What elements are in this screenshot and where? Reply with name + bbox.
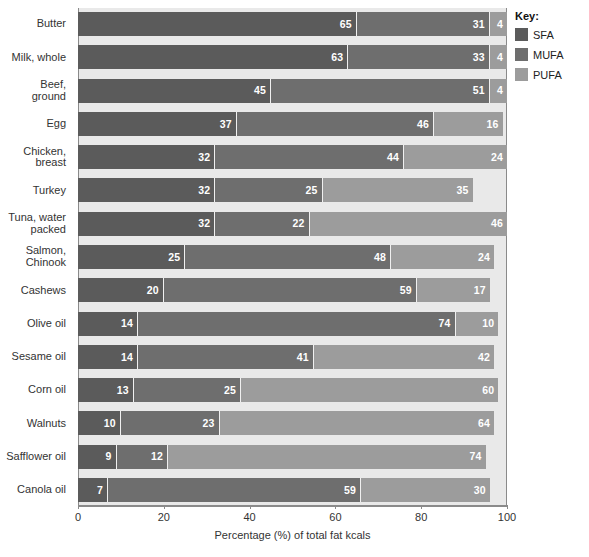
bar-segment-sfa: 32 <box>78 178 215 202</box>
bar-value-label: 30 <box>474 485 490 496</box>
bar-segment-pufa: 4 <box>490 45 507 69</box>
legend-item-sfa[interactable]: SFA <box>515 28 585 41</box>
bar-value-label: 46 <box>417 119 433 130</box>
bar-value-label: 13 <box>117 385 133 396</box>
bar-segment-pufa: 35 <box>323 178 473 202</box>
bar-segment-pufa: 46 <box>310 212 507 236</box>
bar-value-label: 9 <box>106 451 116 462</box>
bar-value-label: 10 <box>104 418 120 429</box>
category-label: Salmon, Chinook <box>0 245 72 269</box>
bar-value-label: 22 <box>293 218 309 229</box>
category-label: Egg <box>0 112 72 136</box>
bar-value-label: 24 <box>491 152 507 163</box>
bar-value-label: 64 <box>478 418 494 429</box>
bar-segment-sfa: 14 <box>78 312 138 336</box>
bar-value-label: 14 <box>121 318 137 329</box>
bar-row: 374616 <box>78 112 507 136</box>
bar-value-label: 23 <box>202 418 218 429</box>
bar-segment-mufa: 12 <box>117 445 168 469</box>
category-label: Milk, whole <box>0 45 72 69</box>
bar-segment-sfa: 7 <box>78 478 108 502</box>
bar-value-label: 7 <box>97 485 107 496</box>
bar-value-label: 48 <box>374 252 390 263</box>
bar-value-label: 25 <box>305 185 321 196</box>
x-tick-label: 40 <box>243 505 255 523</box>
bar-segment-sfa: 10 <box>78 411 121 435</box>
category-label: Sesame oil <box>0 345 72 369</box>
bar-segment-mufa: 22 <box>215 212 309 236</box>
bar-segment-pufa: 10 <box>456 312 499 336</box>
bar-segment-pufa: 60 <box>241 378 498 402</box>
bar-segment-sfa: 25 <box>78 245 185 269</box>
bar-value-label: 35 <box>457 185 473 196</box>
bar-value-label: 24 <box>478 252 494 263</box>
bar-segment-mufa: 25 <box>134 378 241 402</box>
legend-label: SFA <box>533 29 554 41</box>
bar-value-label: 14 <box>121 352 137 363</box>
category-label: Beef, ground <box>0 79 72 103</box>
legend: Key: SFAMUFAPUFA <box>515 10 585 88</box>
category-label: Tuna, water packed <box>0 212 72 236</box>
legend-title: Key: <box>515 10 585 22</box>
bar-value-label: 45 <box>254 85 270 96</box>
x-tick-label: 60 <box>329 505 341 523</box>
bar-value-label: 41 <box>297 352 313 363</box>
stacked-bar-chart: ButterMilk, wholeBeef, groundEggChicken,… <box>0 0 589 557</box>
x-tick-label: 0 <box>75 505 81 523</box>
bar-segment-pufa: 42 <box>314 345 494 369</box>
bar-row: 65314 <box>78 12 507 36</box>
category-label: Corn oil <box>0 378 72 402</box>
category-label: Canola oil <box>0 478 72 502</box>
bar-segment-mufa: 25 <box>215 178 322 202</box>
bar-segment-sfa: 63 <box>78 45 348 69</box>
bar-segment-sfa: 14 <box>78 345 138 369</box>
bar-segment-sfa: 37 <box>78 112 237 136</box>
bar-value-label: 4 <box>497 52 507 63</box>
bar-segment-mufa: 51 <box>271 79 490 103</box>
bar-value-label: 65 <box>340 19 356 30</box>
legend-swatch-icon <box>515 68 528 81</box>
x-axis-line <box>78 505 507 507</box>
bar-value-label: 37 <box>220 119 236 130</box>
bar-row: 322246 <box>78 212 507 236</box>
bar-value-label: 32 <box>198 152 214 163</box>
category-label: Butter <box>0 12 72 36</box>
bar-value-label: 20 <box>147 285 163 296</box>
bar-segment-sfa: 13 <box>78 378 134 402</box>
bar-segment-sfa: 32 <box>78 145 215 169</box>
bar-row: 91274 <box>78 445 507 469</box>
bar-segment-mufa: 41 <box>138 345 314 369</box>
bar-value-label: 74 <box>469 451 485 462</box>
bar-segment-mufa: 46 <box>237 112 434 136</box>
bar-segment-sfa: 45 <box>78 79 271 103</box>
category-axis-labels: ButterMilk, wholeBeef, groundEggChicken,… <box>0 8 72 505</box>
bar-row: 102364 <box>78 411 507 435</box>
bar-row: 132560 <box>78 378 507 402</box>
bar-value-label: 63 <box>331 52 347 63</box>
bar-value-label: 59 <box>344 485 360 496</box>
bar-value-label: 46 <box>491 218 507 229</box>
legend-item-mufa[interactable]: MUFA <box>515 48 585 61</box>
bar-value-label: 44 <box>387 152 403 163</box>
bar-segment-pufa: 24 <box>404 145 507 169</box>
bar-segment-sfa: 20 <box>78 278 164 302</box>
bar-segment-pufa: 4 <box>490 12 507 36</box>
bar-row: 322535 <box>78 178 507 202</box>
bar-value-label: 74 <box>438 318 454 329</box>
category-label: Cashews <box>0 278 72 302</box>
category-label: Chicken, breast <box>0 145 72 169</box>
bar-segment-pufa: 17 <box>417 278 490 302</box>
category-label: Olive oil <box>0 312 72 336</box>
bar-segment-mufa: 31 <box>357 12 490 36</box>
bar-row: 45514 <box>78 79 507 103</box>
category-label: Safflower oil <box>0 445 72 469</box>
legend-item-pufa[interactable]: PUFA <box>515 68 585 81</box>
bar-value-label: 42 <box>478 352 494 363</box>
bar-rows: 6531463334455143746163244243225353222462… <box>78 8 507 505</box>
bar-segment-mufa: 59 <box>108 478 361 502</box>
bar-row: 63334 <box>78 45 507 69</box>
bar-value-label: 32 <box>198 185 214 196</box>
bar-value-label: 51 <box>473 85 489 96</box>
x-tick-label: 20 <box>158 505 170 523</box>
category-label: Walnuts <box>0 411 72 435</box>
